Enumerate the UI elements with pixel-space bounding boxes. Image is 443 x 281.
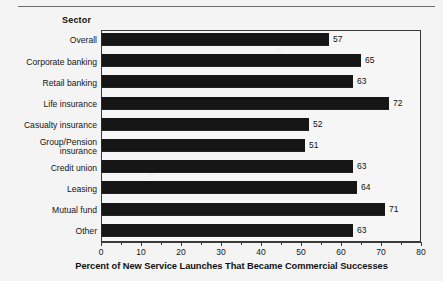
x-tick-minor (161, 242, 162, 245)
x-tick-label: 50 (296, 247, 305, 257)
x-tick-minor (401, 242, 402, 245)
category-label: Group/Pension insurance (0, 138, 97, 157)
bar-series: 57656372525163647163 (101, 30, 421, 242)
category-label: Life insurance (0, 100, 97, 109)
bar-row: 64 (101, 178, 421, 199)
x-tick-minor (281, 242, 282, 245)
bar-value-label: 64 (361, 181, 370, 194)
x-tick-label: 70 (376, 247, 385, 257)
bar-value-label: 51 (309, 139, 318, 152)
x-tick-label: 20 (176, 247, 185, 257)
bar (101, 33, 329, 46)
bar-row: 65 (101, 51, 421, 72)
bar-value-label: 52 (313, 118, 322, 131)
sector-column-header: Sector (62, 15, 91, 25)
bar (101, 224, 353, 237)
bar (101, 75, 353, 88)
bar (101, 203, 385, 216)
x-tick-label: 40 (256, 247, 265, 257)
x-tick-major (301, 242, 302, 246)
x-tick-label: 60 (336, 247, 345, 257)
x-axis-title: Percent of New Service Launches That Bec… (0, 261, 443, 271)
bar-value-label: 65 (365, 54, 374, 67)
bar-row: 51 (101, 136, 421, 157)
x-tick-label: 30 (216, 247, 225, 257)
bar-value-label: 63 (357, 75, 366, 88)
category-label: Mutual fund (0, 206, 97, 215)
category-label: Corporate banking (0, 58, 97, 67)
x-tick-minor (361, 242, 362, 245)
bar-value-label: 72 (393, 97, 402, 110)
category-label: Leasing (0, 185, 97, 194)
bar-value-label: 63 (357, 160, 366, 173)
x-tick-major (181, 242, 182, 246)
x-tick-major (421, 242, 422, 246)
bar-value-label: 63 (357, 224, 366, 237)
bar (101, 54, 361, 67)
category-label: Other (0, 227, 97, 236)
top-divider-rule (18, 6, 435, 7)
bar (101, 118, 309, 131)
category-label: Credit union (0, 164, 97, 173)
bar (101, 97, 389, 110)
bar-row: 63 (101, 72, 421, 93)
bar (101, 181, 357, 194)
bar-row: 63 (101, 157, 421, 178)
bar-row: 72 (101, 94, 421, 115)
x-tick-label: 10 (136, 247, 145, 257)
x-tick-major (261, 242, 262, 246)
category-label: Retail banking (0, 79, 97, 88)
x-tick-major (341, 242, 342, 246)
bar (101, 160, 353, 173)
category-axis-labels: OverallCorporate bankingRetail bankingLi… (0, 30, 97, 242)
category-label: Casualty insurance (0, 121, 97, 130)
bar-row: 57 (101, 30, 421, 51)
x-tick-minor (201, 242, 202, 245)
x-tick-major (221, 242, 222, 246)
bar-row: 52 (101, 115, 421, 136)
x-tick-label: 0 (99, 247, 104, 257)
x-tick-major (101, 242, 102, 246)
category-label: Overall (0, 36, 97, 45)
bar-row: 63 (101, 221, 421, 242)
bar-value-label: 57 (333, 33, 342, 46)
x-tick-minor (241, 242, 242, 245)
bar-row: 71 (101, 200, 421, 221)
x-tick-label: 80 (416, 247, 425, 257)
x-tick-minor (121, 242, 122, 245)
x-tick-minor (321, 242, 322, 245)
x-tick-major (381, 242, 382, 246)
bar (101, 139, 305, 152)
chart-page: Sector OverallCorporate bankingRetail ba… (0, 0, 443, 281)
bar-value-label: 71 (389, 203, 398, 216)
x-tick-major (141, 242, 142, 246)
